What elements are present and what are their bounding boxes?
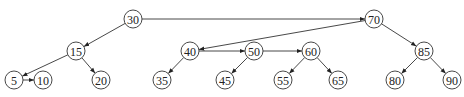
nodes-layer: 3070154050608551020354555658090: [5, 10, 461, 89]
node-label: 70: [368, 13, 380, 27]
tree-node-30: 30: [124, 10, 142, 28]
node-label: 45: [219, 74, 231, 88]
edges-layer: [22, 19, 446, 80]
node-label: 55: [277, 74, 289, 88]
edge-60-to-65: [317, 58, 332, 74]
tree-node-55: 55: [274, 71, 292, 89]
node-label: 30: [127, 13, 139, 27]
edge-85-to-90: [430, 57, 445, 73]
node-label: 60: [305, 45, 317, 59]
tree-node-85: 85: [415, 42, 433, 60]
edge-30-to-15: [84, 23, 125, 46]
tree-node-80: 80: [386, 71, 404, 89]
tree-diagram: 3070154050608551020354555658090: [0, 0, 464, 97]
tree-node-5: 5: [5, 71, 23, 89]
node-label: 15: [70, 45, 82, 59]
tree-node-10: 10: [34, 71, 52, 89]
node-label: 65: [332, 74, 344, 88]
tree-node-65: 65: [329, 71, 347, 89]
edge-70-to-40: [199, 21, 365, 50]
edge-15-to-20: [82, 58, 95, 73]
node-label: 90: [446, 74, 458, 88]
tree-node-20: 20: [92, 71, 110, 89]
edge-50-to-45: [231, 57, 247, 73]
tree-node-90: 90: [443, 71, 461, 89]
node-label: 10: [37, 74, 49, 88]
tree-node-70: 70: [365, 10, 383, 28]
tree-node-40: 40: [181, 42, 199, 60]
node-label: 35: [156, 74, 168, 88]
tree-node-50: 50: [245, 42, 263, 60]
node-label: 80: [389, 74, 401, 88]
node-label: 5: [11, 74, 17, 88]
edge-85-to-80: [401, 57, 417, 73]
tree-node-45: 45: [216, 71, 234, 89]
tree-node-60: 60: [302, 42, 320, 60]
node-label: 50: [248, 45, 260, 59]
tree-node-15: 15: [67, 42, 85, 60]
edge-40-to-35: [168, 57, 183, 73]
node-label: 85: [418, 45, 430, 59]
edge-70-to-85: [382, 24, 417, 46]
node-label: 20: [95, 74, 107, 88]
node-label: 40: [184, 45, 196, 59]
edge-60-to-55: [289, 57, 304, 73]
tree-node-35: 35: [153, 71, 171, 89]
